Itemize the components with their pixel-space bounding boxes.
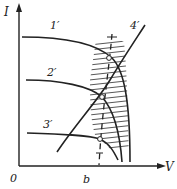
- intersection-point-2: [100, 95, 105, 100]
- curve-1: [22, 37, 130, 162]
- curve-1-label: 1′: [50, 19, 60, 32]
- curve-2: [26, 80, 122, 162]
- origin-label: 0: [10, 172, 17, 185]
- x-axis-label: V: [165, 160, 175, 174]
- intersection-point-3: [98, 137, 103, 142]
- x-mark-label-b: b: [83, 173, 90, 186]
- curve-4-label: 4′: [129, 19, 140, 32]
- curve-3: [27, 133, 118, 160]
- intersection-point-1: [107, 56, 112, 61]
- y-axis-arrow-icon: [16, 3, 22, 12]
- curve-3-label: 3′: [43, 118, 53, 131]
- y-axis-label: I: [3, 5, 9, 19]
- diagram-canvas: I V 0 b 1′ 2′ 3′ 4′: [0, 0, 177, 189]
- curve-2-label: 2′: [46, 66, 57, 79]
